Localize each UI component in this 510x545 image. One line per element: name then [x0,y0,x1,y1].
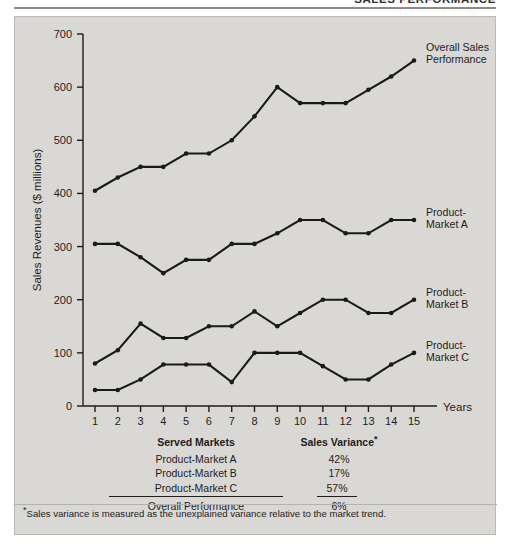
line-chart: 0100200300400500600700 12345678910111213… [15,17,497,425]
series-line [95,61,414,191]
data-point [343,377,348,382]
data-point [321,101,326,106]
data-point [366,377,371,382]
x-tick-label: 2 [115,415,121,425]
data-point [252,242,257,247]
data-point [366,88,371,93]
x-tick-label: 3 [138,415,144,425]
y-axis: 0100200300400500600700 [54,28,83,412]
data-point [161,336,166,341]
series-label: Product- [426,286,467,298]
x-tick-label: 11 [317,415,328,425]
x-tick-label: 13 [362,415,374,425]
table-header-footnote-marker: * [374,434,378,444]
series-labels: Overall SalesPerformanceProduct-Market A… [426,41,489,363]
data-point [252,114,257,119]
y-tick-label: 400 [54,187,72,199]
data-point [229,242,234,247]
data-point [343,101,348,106]
table-row: Product-Market A 42% [107,452,399,467]
data-point [161,165,166,170]
series-label: Overall Sales [426,41,489,53]
data-point [366,231,371,236]
series-label: Market B [426,298,468,310]
x-tick-label: 12 [340,415,352,425]
table-row: Product-Market C 57% [107,481,399,498]
data-point [184,362,189,367]
series-line [95,220,414,273]
x-axis-title: Years [443,401,472,413]
data-point [389,311,394,316]
table-cell-market: Product-Market C [109,481,283,498]
x-tick-label: 7 [229,415,235,425]
running-header-text: SALES PERFORMANCE [354,0,496,5]
data-point [138,377,143,382]
data-point [229,138,234,143]
data-point [229,380,234,385]
series-line [95,353,414,390]
y-tick-label: 500 [54,134,72,146]
data-point [298,218,303,223]
x-tick-label: 10 [294,415,306,425]
data-point [252,351,257,356]
data-point [412,351,417,356]
data-point [93,388,98,393]
x-axis: 123456789101112131415 [83,406,437,425]
data-point [275,85,280,90]
data-point [115,348,120,353]
x-tick-label: 14 [385,415,397,425]
data-point [412,218,417,223]
data-point [138,321,143,326]
data-point [115,242,120,247]
data-point [184,151,189,156]
x-tick-label: 6 [206,415,212,425]
data-point [343,297,348,302]
series-label: Performance [426,53,487,65]
table-cell-variance: 42% [285,452,393,467]
series-label: Product- [426,339,467,351]
data-point [184,258,189,263]
data-point [115,388,120,393]
data-point [275,324,280,329]
data-point [412,58,417,63]
table-cell-market: Product-Market A [107,452,285,467]
data-point [343,231,348,236]
y-axis-title: Sales Revenues ($ millions) [31,149,43,292]
table-header-row: Served Markets Sales Variance* [107,435,399,452]
data-point [366,311,371,316]
footnote-divider [15,504,497,505]
sales-variance-table: Served Markets Sales Variance* Product-M… [15,435,497,514]
data-point [93,242,98,247]
table-header-served-markets: Served Markets [107,435,285,452]
running-header-rule [14,7,496,9]
table-cell-variance: 17% [285,466,393,481]
x-tick-label: 1 [92,415,98,425]
data-point [138,165,143,170]
data-point [275,351,280,356]
data-point [275,231,280,236]
data-point [138,255,143,260]
footnote-text: Sales variance is measured as the unexpl… [27,508,386,519]
table-cell-variance: 57% [317,481,357,498]
data-point [93,188,98,193]
data-point [298,311,303,316]
table-row: Product-Market B 17% [107,466,399,481]
y-tick-label: 200 [54,294,72,306]
data-point [207,151,212,156]
figure-panel: 0100200300400500600700 12345678910111213… [14,16,496,535]
data-point [184,336,189,341]
data-point [161,271,166,276]
data-point [115,175,120,180]
table-header-sales-variance: Sales Variance* [285,435,393,452]
data-point [298,351,303,356]
data-point [229,324,234,329]
y-tick-label: 700 [54,28,72,40]
series-label: Market A [426,218,469,230]
series-label: Market C [426,351,469,363]
x-tick-label: 4 [160,415,166,425]
y-tick-label: 300 [54,241,72,253]
x-tick-label: 5 [183,415,189,425]
data-point [412,297,417,302]
y-tick-label: 0 [66,400,72,412]
data-point [389,362,394,367]
